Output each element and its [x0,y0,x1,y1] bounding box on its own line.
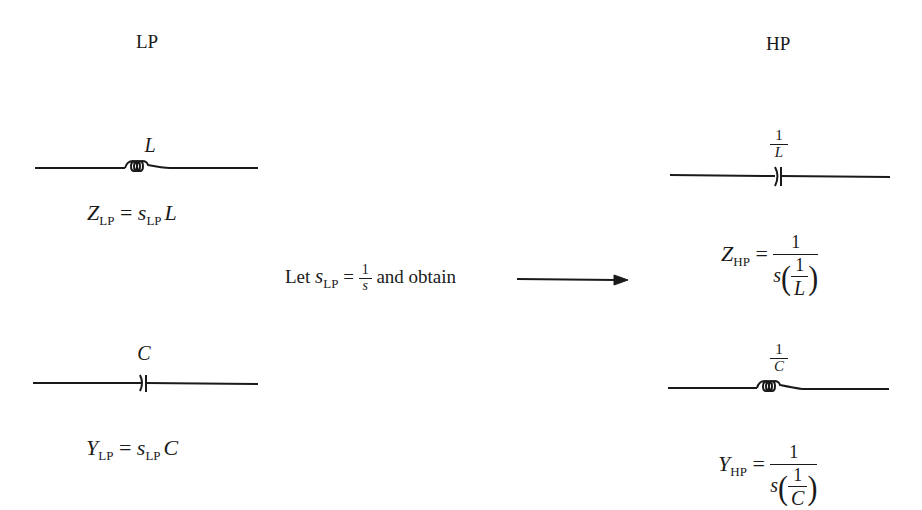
inner-den: C [788,487,807,509]
hp-capacitor-symbol [670,167,890,186]
frac-num: 1 [773,232,818,255]
eq-var-sub: LP [146,213,161,228]
label-den: C [770,359,788,375]
frac-den: s(1C) [770,465,817,509]
frac-den: s [359,279,372,294]
inner-num: 1 [791,256,808,277]
transform-eq: = [343,266,354,287]
eq-elem: C [164,435,179,460]
lp-capacitor-symbol [33,375,258,392]
frac-num: 1 [359,263,372,279]
label-num: 1 [770,128,788,145]
inner-den: L [791,277,808,299]
eq-sign: = [752,451,764,476]
hp-impedance-fraction: 1 s(1L) [773,232,818,299]
lp-inductor-label: L [140,134,160,157]
inner-fraction: 1L [791,256,808,299]
eq-lhs-sub: HP [730,464,747,479]
eq-lhs-sub: HP [733,254,750,269]
eq-sign: = [755,241,767,266]
label-num: 1 [770,342,788,359]
eq-lhs-sub: LP [99,213,114,228]
hp-admittance-fraction: 1 s(1C) [770,442,817,509]
eq-lhs: Y [86,435,98,460]
left-paren: ( [778,468,788,507]
eq-lhs: Z [721,241,733,266]
den-var: s [773,264,781,286]
transform-prefix: Let [285,266,310,287]
den-var: s [770,474,778,496]
frac-num: 1 [770,442,817,465]
eq-sign: = [120,200,132,225]
hp-header: HP [766,33,790,55]
hp-capacitor-label: 1 L [770,128,788,161]
label-den: L [770,145,788,161]
transform-suffix: and obtain [376,266,456,287]
lp-admittance-equation: YLP = sLPC [86,435,178,461]
eq-lhs: Z [87,200,99,225]
lp-impedance-equation: ZLP = sLPL [87,200,177,226]
eq-lhs-sub: LP [98,448,113,463]
hp-inductor-label: 1 C [770,342,788,375]
transformation-statement: Let sLP = 1 s and obtain [285,263,456,293]
lp-inductor-symbol [35,161,258,171]
hp-admittance-equation: YHP = 1 s(1C) [718,432,817,499]
hp-impedance-equation: ZHP = 1 s(1L) [721,222,818,289]
right-paren: ) [808,258,818,297]
eq-elem: L [165,200,177,225]
eq-lhs: Y [718,451,730,476]
right-arrow-icon [517,275,628,285]
hp-inductor-symbol [668,381,889,391]
left-paren: ( [781,258,791,297]
inner-fraction: 1C [788,466,807,509]
lp-capacitor-label: C [134,342,154,365]
right-paren: ) [807,468,817,507]
lp-header: LP [136,31,158,53]
frac-den: s(1L) [773,255,818,299]
inner-num: 1 [788,466,807,487]
transform-fraction: 1 s [359,263,372,293]
eq-sign: = [119,435,131,460]
transform-var-sub: LP [323,276,338,291]
eq-var-sub: LP [145,448,160,463]
